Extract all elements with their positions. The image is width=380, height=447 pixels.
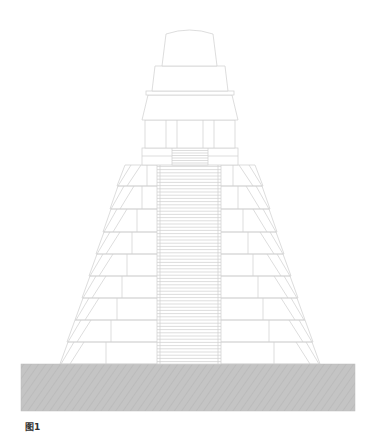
- temple-body: [145, 120, 235, 148]
- roof-comb: [162, 30, 217, 66]
- ground-band: [21, 364, 355, 411]
- summit-temple: [142, 30, 238, 165]
- staircase-outline: [157, 160, 221, 364]
- roof-ledge: [146, 91, 234, 95]
- roof-upper-block: [152, 66, 228, 91]
- pyramid-elevation-drawing: [0, 0, 380, 447]
- figure-caption: 图1: [25, 420, 40, 433]
- ground-hatched-rect: [21, 364, 355, 411]
- temple-roof-band: [142, 95, 238, 120]
- central-staircase: [157, 160, 221, 364]
